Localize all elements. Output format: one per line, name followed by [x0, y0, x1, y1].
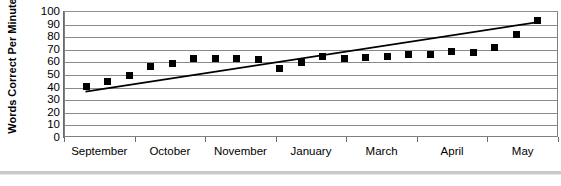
data-point-marker [491, 44, 498, 51]
gridline [65, 37, 557, 38]
footer-divider-light [0, 174, 561, 175]
x-axis-tick [417, 137, 418, 142]
data-point-marker [169, 60, 176, 67]
x-axis-tick [487, 137, 488, 142]
data-point-marker [362, 54, 369, 61]
y-tick-label: 0 [54, 132, 60, 144]
x-tick-label: March [346, 146, 417, 158]
y-tick-label: 10 [47, 119, 60, 131]
data-point-marker [276, 65, 283, 72]
y-axis-tick-labels: 100 90 80 70 60 50 40 30 20 10 0 [26, 0, 60, 186]
gridline [65, 113, 557, 114]
data-point-marker [448, 48, 455, 55]
y-tick-label: 100 [41, 6, 60, 18]
data-point-marker [212, 55, 219, 62]
x-axis-tick [276, 137, 277, 142]
y-tick-label: 60 [47, 56, 60, 68]
x-axis-tick [135, 137, 136, 142]
x-tick-label: October [135, 146, 206, 158]
data-point-marker [147, 63, 154, 70]
data-point-marker [319, 53, 326, 60]
y-tick-label: 80 [47, 31, 60, 43]
data-point-marker [233, 55, 240, 62]
gridline [65, 62, 557, 63]
x-tick-label: November [205, 146, 276, 158]
data-point-marker [126, 72, 133, 79]
data-point-marker [83, 83, 90, 90]
y-tick-label: 90 [47, 19, 60, 31]
y-tick-label: 40 [47, 82, 60, 94]
x-axis-tick [346, 137, 347, 142]
x-tick-label: April [417, 146, 488, 158]
y-tick-label: 50 [47, 69, 60, 81]
data-point-marker [341, 55, 348, 62]
chart-figure: Words Correct Per Minute 100 90 80 70 60… [0, 0, 561, 186]
data-point-marker [190, 55, 197, 62]
gridline [65, 75, 557, 76]
data-point-marker [513, 31, 520, 38]
y-tick-label: 70 [47, 44, 60, 56]
plot-area [64, 11, 558, 137]
x-axis-tick [205, 137, 206, 142]
x-tick-label: May [487, 146, 558, 158]
x-axis-tick [558, 137, 559, 142]
y-axis-title: Words Correct Per Minute [6, 0, 18, 136]
gridline [65, 125, 557, 126]
y-tick-label: 20 [47, 107, 60, 119]
x-axis-tick [64, 137, 65, 142]
x-tick-label: January [276, 146, 347, 158]
gridline [65, 25, 557, 26]
x-tick-label: September [64, 146, 135, 158]
data-point-marker [384, 53, 391, 60]
data-point-marker [104, 78, 111, 85]
y-tick-label: 30 [47, 94, 60, 106]
data-point-marker [470, 49, 477, 56]
gridline [65, 50, 557, 51]
gridline [65, 88, 557, 89]
gridline [65, 100, 557, 101]
data-point-marker [298, 59, 305, 66]
data-point-marker [534, 17, 541, 24]
data-point-marker [427, 51, 434, 58]
data-point-marker [255, 56, 262, 63]
data-point-marker [405, 51, 412, 58]
